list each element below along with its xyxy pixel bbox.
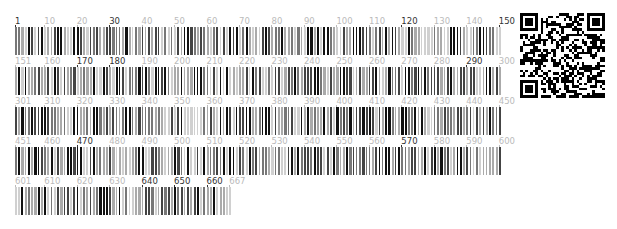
position-label: 190 xyxy=(142,56,158,66)
position-label: 260 xyxy=(369,56,385,66)
position-label: 270 xyxy=(401,56,417,66)
position-label: 610 xyxy=(44,176,60,186)
position-label: 250 xyxy=(336,56,352,66)
sequence-bars xyxy=(15,187,505,215)
position-label: 667 xyxy=(229,176,245,186)
position-label: 301 xyxy=(15,96,31,106)
position-label: 451 xyxy=(15,136,31,146)
sequence-row: 601610620630640650660667 xyxy=(15,176,505,216)
position-label: 170 xyxy=(77,56,93,66)
position-label: 350 xyxy=(174,96,190,106)
position-label: 530 xyxy=(271,136,287,146)
position-label: 510 xyxy=(207,136,223,146)
position-label: 330 xyxy=(109,96,125,106)
position-label: 80 xyxy=(271,16,282,26)
position-label: 390 xyxy=(304,96,320,106)
position-label: 220 xyxy=(239,56,255,66)
position-label: 20 xyxy=(77,16,88,26)
position-label: 320 xyxy=(77,96,93,106)
position-label: 640 xyxy=(142,176,158,186)
position-label: 290 xyxy=(466,56,482,66)
sequence-row: 1511601701801902002102202302402502602702… xyxy=(15,56,505,96)
position-label: 40 xyxy=(142,16,153,26)
position-label: 120 xyxy=(401,16,417,26)
sequence-row: 1102030405060708090100110120130140150 xyxy=(15,16,505,56)
position-label: 540 xyxy=(304,136,320,146)
position-label: 30 xyxy=(109,16,120,26)
position-label: 100 xyxy=(336,16,352,26)
position-label: 560 xyxy=(369,136,385,146)
position-label: 110 xyxy=(369,16,385,26)
position-label: 360 xyxy=(207,96,223,106)
position-label: 410 xyxy=(369,96,385,106)
position-label: 490 xyxy=(142,136,158,146)
position-label: 650 xyxy=(174,176,190,186)
position-label: 460 xyxy=(44,136,60,146)
sequence-row: 4514604704804905005105205305405505605705… xyxy=(15,136,505,176)
position-label: 151 xyxy=(15,56,31,66)
position-label: 10 xyxy=(44,16,55,26)
position-label: 660 xyxy=(207,176,223,186)
position-label: 140 xyxy=(466,16,482,26)
position-label: 70 xyxy=(239,16,250,26)
position-label: 500 xyxy=(174,136,190,146)
qr-code-image xyxy=(520,13,605,98)
position-label: 480 xyxy=(109,136,125,146)
sequence-bars xyxy=(15,27,505,55)
position-label: 150 xyxy=(499,16,515,26)
position-label: 370 xyxy=(239,96,255,106)
position-label: 470 xyxy=(77,136,93,146)
position-label: 400 xyxy=(336,96,352,106)
position-label: 380 xyxy=(271,96,287,106)
position-label: 420 xyxy=(401,96,417,106)
position-label: 240 xyxy=(304,56,320,66)
position-label: 450 xyxy=(499,96,515,106)
sequence-bars xyxy=(15,107,505,135)
position-label: 550 xyxy=(336,136,352,146)
position-label: 50 xyxy=(174,16,185,26)
sequence-bars xyxy=(15,147,505,175)
position-label: 280 xyxy=(434,56,450,66)
position-label: 430 xyxy=(434,96,450,106)
position-label: 601 xyxy=(15,176,31,186)
position-label: 310 xyxy=(44,96,60,106)
position-label: 210 xyxy=(207,56,223,66)
position-label: 590 xyxy=(466,136,482,146)
position-label: 340 xyxy=(142,96,158,106)
position-label: 570 xyxy=(401,136,417,146)
position-label: 60 xyxy=(207,16,218,26)
position-label: 90 xyxy=(304,16,315,26)
position-label: 300 xyxy=(499,56,515,66)
position-label: 160 xyxy=(44,56,60,66)
position-label: 440 xyxy=(466,96,482,106)
position-label: 620 xyxy=(77,176,93,186)
position-label: 1 xyxy=(15,16,20,26)
position-label: 600 xyxy=(499,136,515,146)
position-label: 130 xyxy=(434,16,450,26)
position-label: 230 xyxy=(271,56,287,66)
position-label: 180 xyxy=(109,56,125,66)
sequence-bars xyxy=(15,67,505,95)
position-label: 520 xyxy=(239,136,255,146)
sequence-row: 3013103203303403503603703803904004104204… xyxy=(15,96,505,136)
position-label: 630 xyxy=(109,176,125,186)
position-label: 200 xyxy=(174,56,190,66)
position-label: 580 xyxy=(434,136,450,146)
